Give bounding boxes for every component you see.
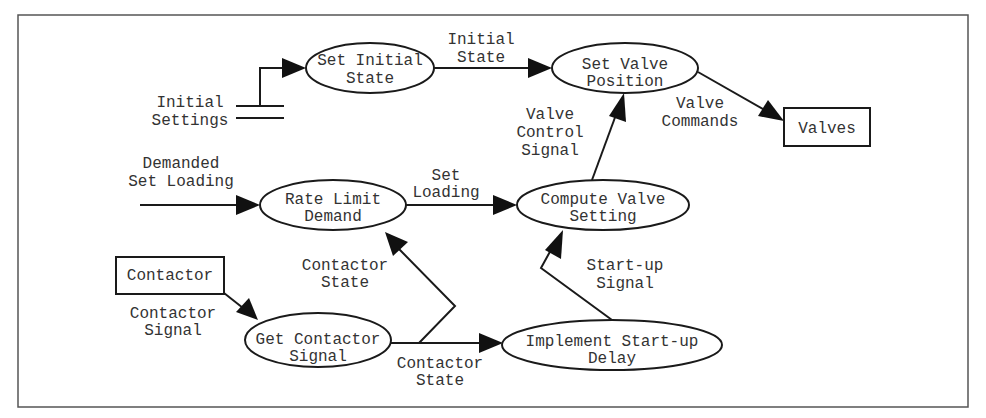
flow-label: Commands <box>662 113 739 131</box>
arrowhead-icon <box>493 195 517 215</box>
flow-label: Initial <box>447 31 514 49</box>
svg-text:Setting: Setting <box>569 208 636 226</box>
external-entity-contactor[interactable]: Contactor <box>116 257 224 294</box>
arrowhead-icon <box>236 195 260 215</box>
flow-label: Set Loading <box>128 173 234 191</box>
flow-label: Set <box>432 167 461 185</box>
svg-text:Valves: Valves <box>798 120 856 138</box>
flow-label: Signal <box>521 142 579 160</box>
flow-valve-control-signal: Valve Control Signal <box>516 93 626 180</box>
process-implement-startup-delay[interactable]: Implement Start-up Delay <box>502 320 722 370</box>
svg-text:Set Valve: Set Valve <box>582 56 668 74</box>
flow-contactor-state-to-startup-delay: Contactor State <box>391 333 503 390</box>
flow-label: Demanded <box>143 155 220 173</box>
flow-contactor-signal: Contactor Signal <box>130 293 258 340</box>
arrowhead-icon <box>385 232 408 256</box>
data-store-initial-settings: Initial Settings <box>152 94 284 130</box>
flow-label: Control <box>516 124 583 142</box>
arrowhead-icon <box>758 100 784 121</box>
flow-label: State <box>457 49 505 67</box>
svg-text:Position: Position <box>587 73 664 91</box>
process-get-contactor-signal[interactable]: Get Contactor Signal <box>245 313 391 367</box>
process-set-valve-position[interactable]: Set Valve Position <box>552 43 698 93</box>
external-entity-valves[interactable]: Valves <box>784 108 870 146</box>
flow-label: Valve <box>676 95 724 113</box>
flow-label: Valve <box>526 106 574 124</box>
flow-label: Contactor <box>130 305 216 323</box>
flow-label: State <box>416 372 464 390</box>
svg-text:Signal: Signal <box>289 348 347 366</box>
svg-text:Rate Limit: Rate Limit <box>285 191 381 209</box>
flow-label: Loading <box>412 184 479 202</box>
data-store-label: Initial <box>156 94 223 112</box>
flow-set-loading: Set Loading <box>406 167 517 215</box>
flow-initial-settings-to-set-initial-state <box>260 58 306 106</box>
svg-text:Delay: Delay <box>588 350 636 368</box>
arrowhead-icon <box>528 58 552 78</box>
process-compute-valve-setting[interactable]: Compute Valve Setting <box>517 180 689 230</box>
arrowhead-icon <box>609 93 626 122</box>
flow-demanded-set-loading: Demanded Set Loading <box>128 155 260 215</box>
data-flow-diagram: Initial Settings Set Initial State Initi… <box>0 0 986 418</box>
svg-text:Implement Start-up: Implement Start-up <box>526 333 699 351</box>
flow-label: Contactor <box>397 355 483 373</box>
flow-label: Signal <box>144 322 202 340</box>
flow-label: Contactor <box>302 257 388 275</box>
process-set-initial-state[interactable]: Set Initial State <box>306 43 434 93</box>
flow-label: State <box>321 274 369 292</box>
svg-text:Compute Valve: Compute Valve <box>541 191 666 209</box>
arrowhead-icon <box>479 333 503 353</box>
svg-text:Contactor: Contactor <box>127 267 213 285</box>
flow-initial-state: Initial State <box>434 31 552 78</box>
flow-startup-signal: Start-up Signal <box>541 230 663 320</box>
flow-label: Start-up <box>587 257 664 275</box>
process-rate-limit-demand[interactable]: Rate Limit Demand <box>260 180 406 230</box>
svg-text:State: State <box>346 70 394 88</box>
svg-text:Get Contactor: Get Contactor <box>256 331 381 349</box>
flow-label: Signal <box>596 275 654 293</box>
arrowhead-icon <box>282 58 306 78</box>
arrowhead-icon <box>236 298 258 320</box>
data-store-label: Settings <box>152 112 229 130</box>
svg-text:Set Initial: Set Initial <box>317 52 423 70</box>
svg-text:Demand: Demand <box>304 208 362 226</box>
